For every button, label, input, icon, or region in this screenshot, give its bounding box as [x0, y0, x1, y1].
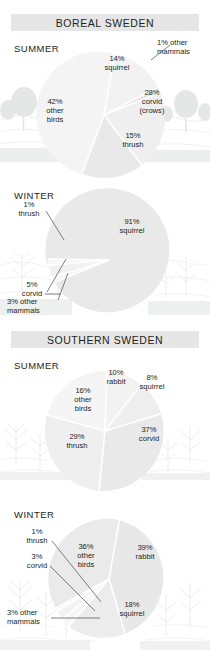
- pie-label-southern-winter-rabbit: 39% rabbit: [124, 543, 166, 561]
- leader-line-boreal-winter-thrush: [45, 210, 69, 242]
- section-divider: [11, 322, 199, 323]
- leader-line-southern-winter-other-mammals: [50, 614, 102, 622]
- section-header-boreal: BOREAL SWEDEN: [11, 14, 199, 31]
- pie-label-boreal-summer-thrush: 15% thrush: [113, 131, 153, 149]
- pie-label-southern-winter-thrush: 1% thrush: [19, 527, 55, 545]
- pie-label-southern-summer-rabbit: 10% rabbit: [97, 368, 135, 386]
- pie-label-boreal-summer-other-birds: 42% other birds: [35, 97, 75, 125]
- pie-label-boreal-summer-squirrel: 14% squirrel: [95, 54, 139, 72]
- pie-label-southern-summer-squirrel: 8% squirrel: [131, 373, 173, 391]
- pie-label-boreal-summer-corvid: 28% corvid (crows): [129, 88, 175, 116]
- pie-label-boreal-winter-thrush: 1% thrush: [10, 200, 48, 218]
- pie-label-southern-winter-squirrel: 18% squirrel: [109, 600, 155, 618]
- leader-line-boreal-winter-other-mammals: [54, 272, 70, 302]
- poster-root: BOREAL SWEDEN SUMMER: [0, 0, 210, 658]
- section-title-boreal: BOREAL SWEDEN: [11, 14, 199, 31]
- leader-line-southern-winter-corvid: [49, 565, 97, 613]
- pie-label-southern-summer-corvid: 37% corvid: [128, 425, 170, 443]
- section-title-southern: SOUTHERN SWEDEN: [11, 331, 199, 348]
- pie-label-boreal-winter-squirrel: 91% squirrel: [108, 217, 156, 235]
- section-header-southern: SOUTHERN SWEDEN: [11, 331, 199, 348]
- pie-label-southern-summer-other-birds: 16% other birds: [62, 386, 104, 414]
- pie-label-boreal-summer-other-mammals: 1% other mammals: [157, 38, 209, 56]
- pie-label-southern-summer-thrush: 29% thrush: [56, 432, 98, 450]
